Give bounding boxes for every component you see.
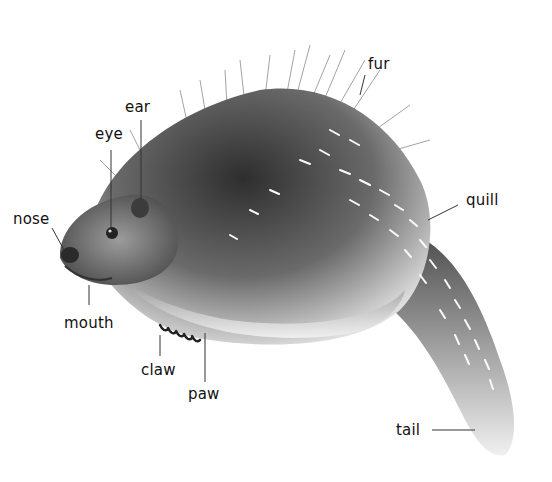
label-nose: nose xyxy=(13,212,50,227)
eye-shape xyxy=(106,227,118,239)
label-mouth: mouth xyxy=(64,316,114,331)
label-ear: ear xyxy=(125,100,150,115)
label-quill: quill xyxy=(466,193,499,208)
label-paw: paw xyxy=(188,387,220,402)
head-shape xyxy=(60,195,178,285)
label-claw: claw xyxy=(141,363,176,378)
porcupine-illustration xyxy=(0,0,552,482)
label-fur: fur xyxy=(368,57,390,72)
label-tail: tail xyxy=(396,423,420,438)
porcupine-diagram: fur ear eye nose quill mouth claw paw ta… xyxy=(0,0,552,482)
ear-shape xyxy=(131,198,149,218)
label-eye: eye xyxy=(95,127,123,142)
